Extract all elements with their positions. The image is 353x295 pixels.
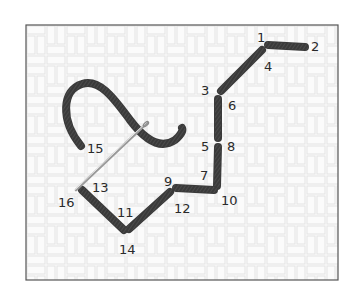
step-label-14: 14: [119, 242, 136, 257]
step-label-10: 10: [221, 193, 238, 208]
step-label-11: 11: [117, 205, 134, 220]
step-label-16: 16: [58, 195, 75, 210]
step-label-12: 12: [174, 201, 191, 216]
stitch-8-7: [217, 147, 218, 186]
step-label-6: 6: [228, 98, 236, 113]
step-label-5: 5: [201, 139, 209, 154]
step-label-8: 8: [227, 139, 235, 154]
step-label-7: 7: [200, 168, 208, 183]
step-label-4: 4: [264, 59, 272, 74]
step-label-13: 13: [92, 180, 109, 195]
stitch-diagram: 12345678910111213141516: [0, 0, 353, 295]
stitch-1-2: [268, 45, 305, 47]
fabric-frame: [26, 25, 338, 280]
stitch-10-9: [176, 188, 214, 190]
step-label-3: 3: [201, 83, 209, 98]
step-label-1: 1: [257, 30, 265, 45]
step-label-2: 2: [311, 39, 319, 54]
step-label-15: 15: [87, 141, 104, 156]
step-label-9: 9: [164, 174, 172, 189]
